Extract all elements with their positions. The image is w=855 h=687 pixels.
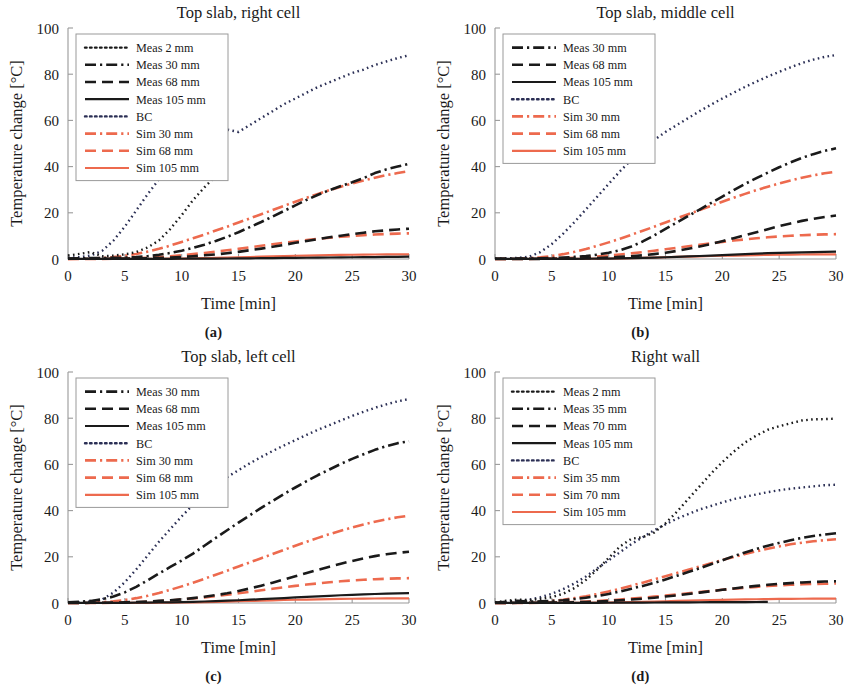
x-tick-label: 30 [402, 268, 417, 284]
series-line [495, 148, 836, 258]
legend-label: Sim 105 mm [136, 488, 199, 502]
x-tick-label: 10 [601, 268, 616, 284]
y-tick-label: 80 [471, 411, 486, 427]
x-tick-label: 30 [829, 268, 844, 284]
y-tick-label: 20 [471, 205, 486, 221]
x-axis-label: Time [min] [201, 638, 276, 657]
legend-label: Sim 105 mm [563, 144, 626, 158]
legend-label: Meas 105 mm [563, 75, 633, 89]
chart-panel-c: Top slab, left cell020406080100051015202… [0, 344, 427, 687]
panel-caption: (d) [427, 668, 854, 685]
legend-label: Sim 30 mm [136, 454, 193, 468]
chart-svg: Top slab, left cell020406080100051015202… [0, 344, 427, 687]
chart-panel-d: Right wall020406080100051015202530Meas 2… [427, 344, 854, 687]
x-tick-label: 20 [715, 612, 730, 628]
series-line [495, 539, 836, 603]
legend-label: Sim 105 mm [136, 161, 199, 175]
y-tick-label: 80 [44, 67, 59, 83]
chart-title: Top slab, right cell [177, 3, 301, 22]
y-axis-label: Temperature change [°C] [7, 404, 26, 571]
legend-label: Meas 70 mm [563, 419, 627, 433]
chart-title: Right wall [631, 347, 701, 366]
y-tick-label: 0 [479, 252, 487, 268]
legend-label: BC [563, 93, 579, 107]
legend-label: Meas 2 mm [136, 41, 194, 55]
x-tick-label: 25 [345, 268, 360, 284]
y-tick-label: 60 [44, 113, 59, 129]
x-tick-label: 10 [601, 612, 616, 628]
y-tick-label: 20 [44, 549, 59, 565]
legend-label: Meas 68 mm [563, 58, 627, 72]
legend-label: Sim 70 mm [563, 488, 620, 502]
chart-svg: Top slab, middle cell0204060801000510152… [427, 0, 854, 343]
legend-label: Meas 35 mm [563, 402, 627, 416]
x-tick-label: 10 [174, 612, 189, 628]
legend-label: Meas 105 mm [563, 437, 633, 451]
legend-label: Meas 68 mm [136, 402, 200, 416]
x-tick-label: 15 [658, 268, 673, 284]
figure-container: Top slab, right cell02040608010005101520… [0, 0, 855, 687]
x-tick-label: 25 [772, 612, 787, 628]
y-tick-label: 100 [464, 21, 487, 37]
legend-label: Sim 105 mm [563, 505, 626, 519]
x-axis-label: Time [min] [628, 294, 703, 313]
y-tick-label: 80 [471, 67, 486, 83]
y-tick-label: 100 [464, 365, 487, 381]
legend-label: Meas 30 mm [136, 58, 200, 72]
y-tick-label: 60 [471, 457, 486, 473]
x-tick-label: 5 [121, 612, 129, 628]
chart-svg: Right wall020406080100051015202530Meas 2… [427, 344, 854, 687]
x-tick-label: 15 [231, 268, 246, 284]
legend-box [503, 378, 655, 525]
x-tick-label: 20 [715, 268, 730, 284]
y-tick-label: 0 [52, 252, 60, 268]
x-tick-label: 20 [288, 268, 303, 284]
x-tick-label: 5 [548, 612, 556, 628]
chart-panel-b: Top slab, middle cell0204060801000510152… [427, 0, 854, 343]
y-axis-label: Temperature change [°C] [7, 60, 26, 227]
y-tick-label: 0 [479, 596, 487, 612]
x-tick-label: 10 [174, 268, 189, 284]
x-tick-label: 20 [288, 612, 303, 628]
legend-label: Meas 30 mm [563, 41, 627, 55]
x-tick-label: 5 [548, 268, 556, 284]
y-tick-label: 20 [44, 205, 59, 221]
x-tick-label: 0 [64, 612, 72, 628]
y-tick-label: 100 [37, 365, 60, 381]
y-tick-label: 40 [471, 159, 486, 175]
y-tick-label: 60 [471, 113, 486, 129]
legend-label: Meas 68 mm [136, 75, 200, 89]
chart-panel-a: Top slab, right cell02040608010005101520… [0, 0, 427, 343]
legend-label: Sim 30 mm [136, 127, 193, 141]
y-tick-label: 80 [44, 411, 59, 427]
panel-caption: (b) [427, 324, 854, 341]
x-tick-label: 30 [402, 612, 417, 628]
y-tick-label: 40 [44, 503, 59, 519]
legend-label: Meas 105 mm [136, 419, 206, 433]
legend-label: Sim 68 mm [136, 471, 193, 485]
legend-label: Meas 2 mm [563, 385, 621, 399]
y-tick-label: 20 [471, 549, 486, 565]
y-tick-label: 40 [44, 159, 59, 175]
panel-caption: (c) [0, 668, 427, 685]
x-tick-label: 0 [491, 612, 499, 628]
x-tick-label: 25 [345, 612, 360, 628]
x-tick-label: 15 [658, 612, 673, 628]
legend-label: Sim 68 mm [563, 127, 620, 141]
legend-box [76, 34, 228, 181]
y-axis-label: Temperature change [°C] [434, 60, 453, 227]
x-axis-label: Time [min] [201, 294, 276, 313]
x-tick-label: 25 [772, 268, 787, 284]
x-tick-label: 30 [829, 612, 844, 628]
y-axis-label: Temperature change [°C] [434, 404, 453, 571]
chart-title: Top slab, left cell [181, 347, 296, 366]
legend-label: Meas 30 mm [136, 385, 200, 399]
series-line [68, 171, 409, 259]
legend-label: Sim 68 mm [136, 144, 193, 158]
legend-label: BC [136, 437, 152, 451]
x-tick-label: 15 [231, 612, 246, 628]
series-line [495, 533, 836, 603]
series-line [495, 172, 836, 259]
panel-caption: (a) [0, 324, 427, 341]
x-tick-label: 0 [64, 268, 72, 284]
